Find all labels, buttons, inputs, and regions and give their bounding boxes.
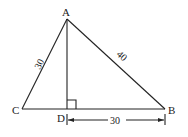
length-label-db: 30 — [110, 115, 120, 126]
point-label-d: D — [57, 112, 65, 124]
segment-ab — [67, 19, 165, 109]
dimension-arrow-left — [68, 118, 74, 122]
length-label-ab: 40 — [115, 48, 130, 63]
point-label-c: C — [12, 104, 19, 116]
point-label-a: A — [62, 6, 70, 18]
triangle-diagram: A B C D 30 40 30 — [0, 0, 188, 137]
length-label-ac: 30 — [32, 57, 46, 71]
point-label-b: B — [168, 104, 175, 116]
dimension-arrow-right — [158, 118, 164, 122]
right-angle-marker — [67, 100, 76, 109]
